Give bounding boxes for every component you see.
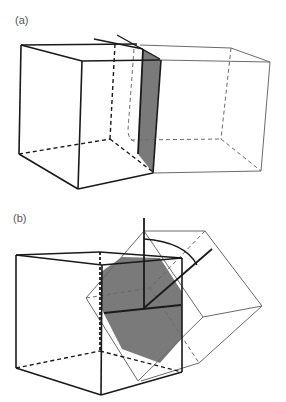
panel-a: (a) bbox=[0, 0, 286, 200]
panel-a-diagram bbox=[0, 0, 286, 200]
panel-b: (b) bbox=[0, 200, 286, 402]
left-cube bbox=[19, 44, 161, 189]
panel-b-diagram bbox=[0, 200, 286, 402]
